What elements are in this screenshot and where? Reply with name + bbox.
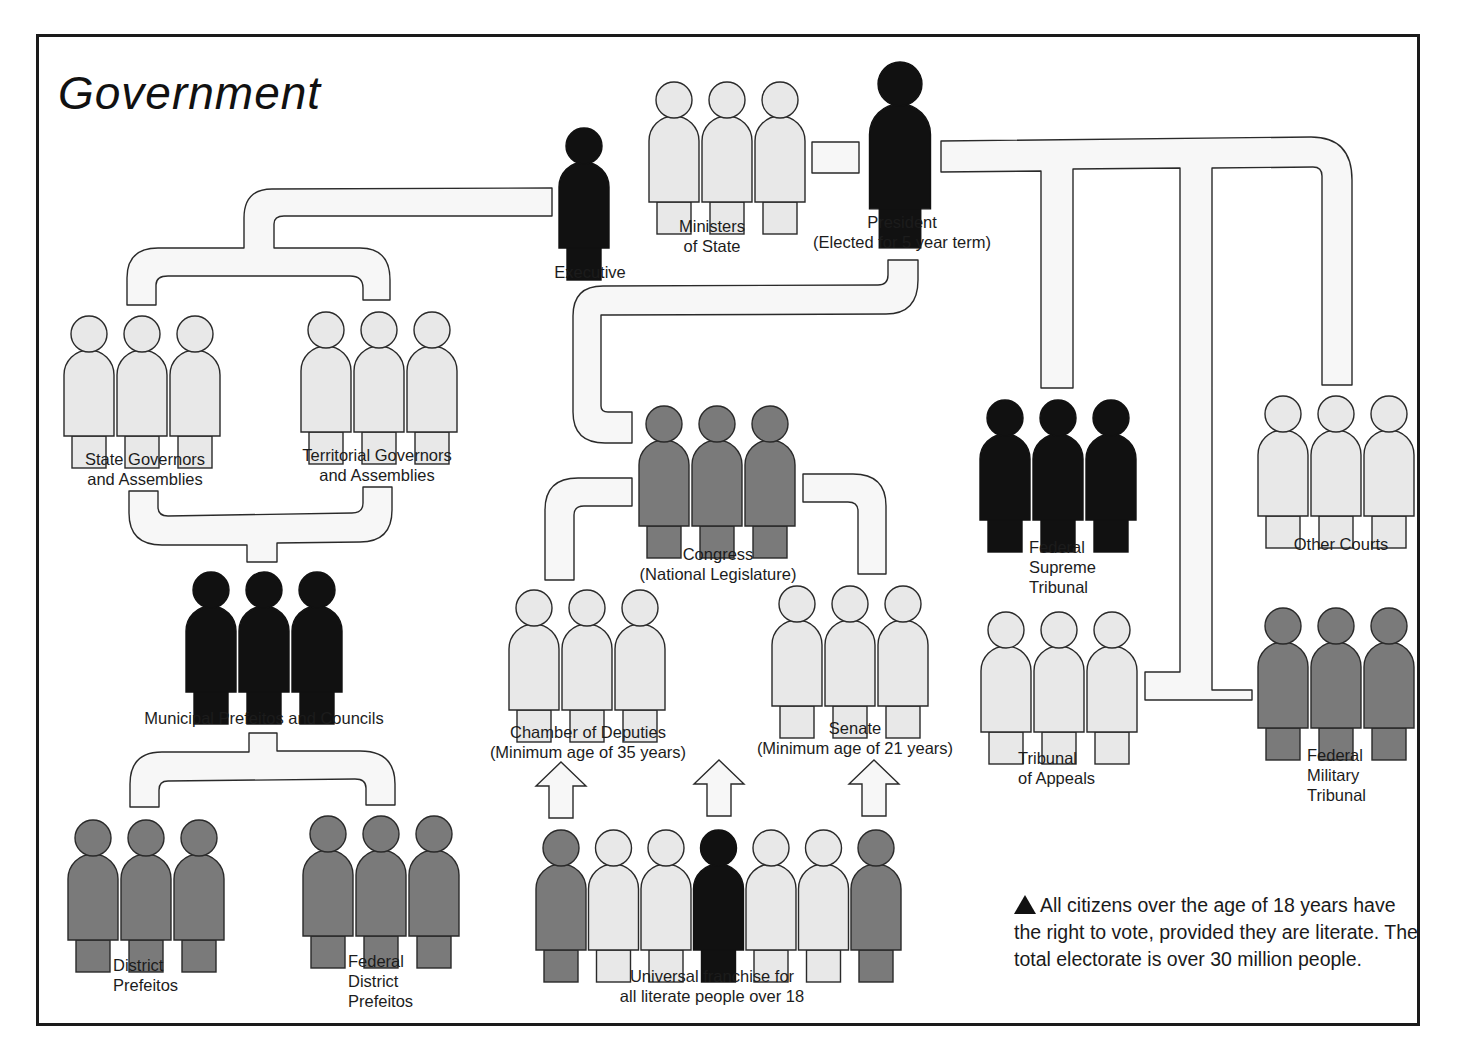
group-chamber (509, 590, 665, 742)
pipe-congress-to-senate (803, 474, 886, 574)
arrow-up-icon (694, 760, 744, 816)
person-figure-icon (1364, 396, 1414, 548)
group-senate (772, 586, 928, 738)
label-line: Tribunal (1307, 785, 1366, 805)
person-figure-icon (407, 312, 457, 464)
pipe-executive-to-governors (127, 188, 552, 305)
person-figure-icon (409, 816, 459, 968)
person-figure-icon (1311, 608, 1361, 760)
arrow-up-icon (849, 760, 899, 816)
person-figure-icon (303, 816, 353, 968)
person-figure-icon (745, 406, 795, 558)
person-figure-icon (825, 586, 875, 738)
person-figure-icon (301, 312, 351, 464)
page-title: Government (58, 66, 321, 120)
group-territorial-governors (301, 312, 457, 464)
person-figure-icon (641, 830, 691, 982)
person-figure-icon (694, 830, 744, 982)
group-other-courts (1258, 396, 1414, 548)
federal-district-label: FederalDistrictPrefeitos (348, 951, 413, 1011)
person-figure-icon (1258, 608, 1308, 760)
triangle-up-icon (1014, 895, 1036, 914)
label-line: Federal (1029, 537, 1096, 557)
chamber-label: Chamber of Deputies(Minimum age of 35 ye… (490, 722, 686, 762)
label-line: District (348, 971, 413, 991)
person-figure-icon (354, 312, 404, 464)
ministers-label: Ministersof State (679, 216, 745, 256)
group-federal-supreme (980, 400, 1136, 552)
person-figure-icon (186, 572, 236, 724)
person-figure-icon (799, 830, 849, 982)
group-federal-district (303, 816, 459, 968)
label-line: Prefeitos (113, 975, 178, 995)
label-line: Territorial Governors (302, 445, 451, 465)
group-state-governors (64, 316, 220, 468)
territorial-governors-label: Territorial Governorsand Assemblies (302, 445, 451, 485)
label-line: (Minimum age of 21 years) (757, 738, 953, 758)
person-figure-icon (509, 590, 559, 742)
federal-military-label: FederalMilitaryTribunal (1307, 745, 1366, 805)
president-label: President(Elected for 5 year term) (813, 212, 991, 252)
pipe-ministers-president (812, 142, 859, 173)
person-figure-icon (559, 128, 609, 280)
person-figure-icon (702, 82, 752, 234)
pipe-governors-to-municipal (129, 487, 392, 562)
label-line: of State (679, 236, 745, 256)
label-line: and Assemblies (85, 469, 205, 489)
group-ministers (649, 82, 805, 234)
group-municipal (186, 572, 342, 724)
label-line: all literate people over 18 (620, 986, 804, 1006)
person-figure-icon (746, 830, 796, 982)
person-figure-icon (117, 316, 167, 468)
label-line: (National Legislature) (640, 564, 797, 584)
person-figure-icon (536, 830, 586, 982)
person-figure-icon (851, 830, 901, 982)
person-figure-icon (649, 82, 699, 234)
label-line: State Governors (85, 449, 205, 469)
group-congress (639, 406, 795, 558)
person-figure-icon (239, 572, 289, 724)
group-federal-military (1258, 608, 1414, 760)
label-line: Municipal Prefeitos and Councils (144, 708, 383, 728)
label-line: Federal (1307, 745, 1366, 765)
label-line: Congress (640, 544, 797, 564)
person-figure-icon (981, 612, 1031, 764)
person-figure-icon (1364, 608, 1414, 760)
person-figure-icon (170, 316, 220, 468)
label-line: Universal franchise for (620, 966, 804, 986)
pipe-congress-to-chamber (545, 478, 632, 580)
arrow-up-icon (536, 762, 586, 818)
person-figure-icon (878, 586, 928, 738)
executive-label: Executive (554, 262, 626, 282)
person-figure-icon (68, 820, 118, 972)
person-figure-icon (356, 816, 406, 968)
person-figure-icon (64, 316, 114, 468)
tribunal-appeals-label: Tribunalof Appeals (1018, 748, 1095, 788)
other-courts-label: Other Courts (1294, 534, 1388, 554)
person-figure-icon (1311, 396, 1361, 548)
label-line: and Assemblies (302, 465, 451, 485)
pipe-president-to-congress (573, 260, 918, 443)
person-figure-icon (1086, 400, 1136, 552)
label-line: Senate (757, 718, 953, 738)
group-district (68, 820, 224, 972)
person-figure-icon (1087, 612, 1137, 764)
person-figure-icon (615, 590, 665, 742)
municipal-label: Municipal Prefeitos and Councils (144, 708, 383, 728)
person-figure-icon (1033, 400, 1083, 552)
district-label: DistrictPrefeitos (113, 955, 178, 995)
vote-arrows (536, 760, 899, 818)
electorate-label: Universal franchise forall literate peop… (620, 966, 804, 1006)
pipe-municipal-to-districts (130, 733, 395, 807)
label-line: District (113, 955, 178, 975)
label-line: (Minimum age of 35 years) (490, 742, 686, 762)
electorate-note: All citizens over the age of 18 years ha… (1014, 892, 1424, 973)
person-figure-icon (755, 82, 805, 234)
label-line: Prefeitos (348, 991, 413, 1011)
label-line: Ministers (679, 216, 745, 236)
person-figure-icon (121, 820, 171, 972)
person-figure-icon (589, 830, 639, 982)
group-executive (559, 128, 609, 280)
person-figure-icon (980, 400, 1030, 552)
person-figure-icon (692, 406, 742, 558)
